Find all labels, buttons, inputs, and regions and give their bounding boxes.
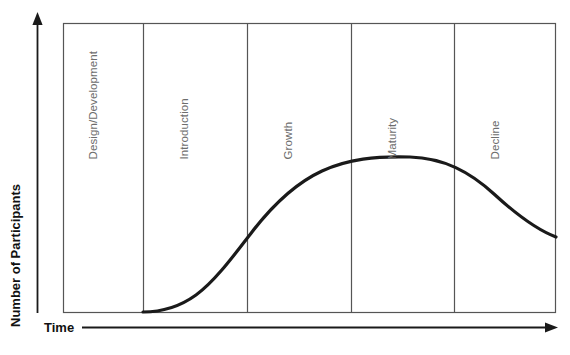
lifecycle-curve-figure: Design/Development Introduction Growth M… bbox=[0, 0, 570, 355]
stage-label-introduction: Introduction bbox=[179, 98, 191, 159]
figure-graphic bbox=[0, 0, 570, 355]
x-axis-arrow bbox=[82, 322, 558, 332]
stage-label-maturity: Maturity bbox=[387, 118, 399, 160]
y-axis-label: Number of Participants bbox=[9, 184, 22, 327]
stage-label-growth: Growth bbox=[283, 122, 295, 160]
lifecycle-curve bbox=[143, 157, 556, 312]
y-axis-arrow bbox=[32, 12, 42, 313]
plot-frame bbox=[64, 24, 556, 313]
stage-label-decline: Decline bbox=[490, 120, 502, 159]
x-axis-label: Time bbox=[44, 321, 74, 334]
stage-label-design-development: Design/Development bbox=[88, 51, 100, 160]
